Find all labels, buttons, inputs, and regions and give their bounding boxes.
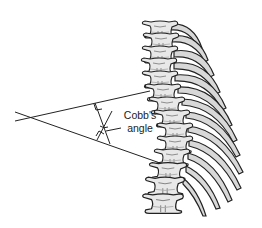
cobb-angle-label-line1: Cobb's <box>120 109 160 121</box>
cobb-angle-label-line2: angle <box>122 122 158 134</box>
upper-perpendicular <box>95 103 110 144</box>
label-leader-line <box>106 128 121 131</box>
cobb-angle-diagram: Cobb's angle <box>0 0 262 228</box>
